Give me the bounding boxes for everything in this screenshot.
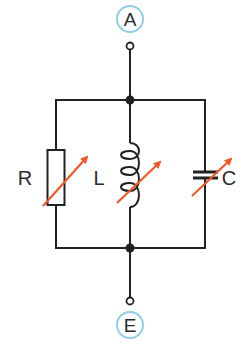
terminal-e: E: [117, 298, 143, 339]
resistor-label: R: [18, 167, 32, 189]
wires: [56, 50, 205, 298]
terminal-a: A: [117, 6, 143, 50]
circuit-diagram: A R L C E: [0, 0, 251, 360]
inductor-label: L: [93, 167, 104, 189]
terminal-a-node: [127, 43, 134, 50]
variable-capacitor: C: [192, 159, 236, 196]
capacitor-label: C: [222, 167, 236, 189]
junction-bottom: [126, 244, 135, 253]
junction-top: [126, 96, 135, 105]
terminal-e-node: [127, 298, 134, 305]
terminal-a-label: A: [124, 9, 137, 30]
variable-inductor: L: [93, 143, 160, 207]
terminal-e-label: E: [124, 315, 137, 336]
variable-resistor: R: [18, 150, 87, 206]
